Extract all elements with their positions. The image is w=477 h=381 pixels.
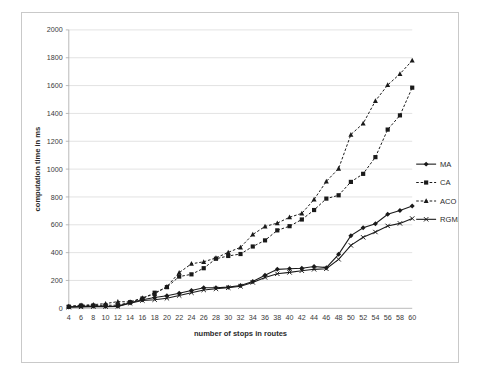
series-layer (66, 58, 414, 310)
data-point-ma (275, 267, 280, 272)
x-tick-label: 36 (261, 314, 269, 322)
series-line-rgma (69, 219, 412, 308)
x-axis-title: number of stops in routes (194, 329, 287, 338)
data-point-ca (300, 217, 304, 221)
x-tick-label: 14 (126, 314, 134, 322)
y-tick-label: 1000 (47, 166, 63, 174)
y-axis-title: computation time in ms (33, 127, 42, 212)
data-point-rgma (410, 216, 414, 220)
data-point-ca (226, 254, 230, 258)
data-point-ca (386, 127, 390, 131)
x-tick-label: 58 (396, 314, 404, 322)
y-tick-label: 0 (59, 305, 63, 313)
y-tick-label: 1800 (47, 54, 63, 62)
data-point-ca (361, 172, 365, 176)
data-point-aco (361, 121, 366, 126)
legend-marker-ca (424, 180, 428, 184)
x-tick-label: 28 (212, 314, 220, 322)
y-tick-label: 200 (51, 277, 63, 285)
x-tick-label: 40 (286, 314, 294, 322)
x-tick-label: 8 (91, 314, 95, 322)
x-tick-label: 10 (102, 314, 110, 322)
data-point-ca (238, 252, 242, 256)
x-tick-label: 16 (138, 314, 146, 322)
data-point-ca (189, 272, 193, 276)
data-point-ca (263, 238, 267, 242)
legend-label-ma: MA (440, 160, 452, 169)
legend-item-rgma[interactable]: RGMA (416, 215, 458, 224)
data-point-ca (177, 274, 181, 278)
data-point-aco (336, 166, 341, 171)
data-point-aco (410, 58, 415, 63)
x-tick-label: 48 (335, 314, 343, 322)
data-point-ca (251, 244, 255, 248)
x-tick-label: 34 (249, 314, 257, 322)
data-point-ca (373, 155, 377, 159)
series-aco (66, 58, 414, 309)
legend-marker-ma (424, 162, 429, 167)
data-point-ca (349, 180, 353, 184)
data-point-ca (410, 86, 414, 90)
y-tickmarks (66, 30, 69, 308)
data-point-rgma (336, 257, 340, 261)
x-tick-label: 26 (200, 314, 208, 322)
y-tick-label: 400 (51, 249, 63, 257)
x-tick-label: 54 (371, 314, 379, 322)
x-tick-label: 32 (237, 314, 245, 322)
y-tick-labels: 0200400600800100012001400160018002000 (47, 26, 63, 312)
data-point-ca (337, 193, 341, 197)
legend-label-rgma: RGMA (440, 215, 458, 224)
x-tick-label: 20 (163, 314, 171, 322)
x-tick-label: 18 (151, 314, 159, 322)
y-tick-label: 2000 (47, 26, 63, 34)
legend-label-aco: ACO (440, 197, 456, 206)
data-point-aco (250, 232, 255, 237)
y-tick-label: 800 (51, 194, 63, 202)
y-tick-label: 1400 (47, 110, 63, 118)
x-tick-label: 24 (187, 314, 195, 322)
data-point-aco (373, 98, 378, 103)
data-point-ma (410, 204, 415, 209)
y-tick-label: 1200 (47, 138, 63, 146)
legend-label-ca: CA (440, 178, 451, 187)
x-tick-label: 52 (359, 314, 367, 322)
x-tick-label: 30 (224, 314, 232, 322)
data-point-aco (177, 270, 182, 275)
data-point-rgma (373, 230, 377, 234)
gridlines (69, 30, 412, 281)
chart-legend: MACAACORGMA (416, 160, 458, 224)
x-tick-labels: 4681012141618202224262830323436384042444… (67, 314, 416, 322)
data-point-ca (275, 228, 279, 232)
legend-item-ca[interactable]: CA (416, 178, 451, 187)
y-tick-label: 1600 (47, 82, 63, 90)
legend-marker-aco (424, 198, 429, 203)
data-point-ca (398, 113, 402, 117)
series-line-ma (69, 206, 412, 307)
x-tick-label: 46 (322, 314, 330, 322)
data-point-ca (312, 208, 316, 212)
data-point-rgma (361, 235, 365, 239)
x-tick-label: 42 (298, 314, 306, 322)
x-tick-label: 4 (67, 314, 71, 322)
x-tick-label: 12 (114, 314, 122, 322)
data-point-rgma (349, 243, 353, 247)
computation-time-line-chart: 0200400600800100012001400160018002000 46… (22, 13, 458, 362)
x-tick-label: 44 (310, 314, 318, 322)
x-tick-label: 60 (408, 314, 416, 322)
data-point-aco (189, 261, 194, 266)
legend-item-aco[interactable]: ACO (416, 197, 456, 206)
legend-item-ma[interactable]: MA (416, 160, 452, 169)
x-tick-label: 22 (175, 314, 183, 322)
data-point-ca (202, 266, 206, 270)
chart-container: 0200400600800100012001400160018002000 46… (21, 12, 459, 363)
x-tick-label: 50 (347, 314, 355, 322)
x-tick-label: 38 (273, 314, 281, 322)
x-tick-label: 6 (79, 314, 83, 322)
x-tick-label: 56 (384, 314, 392, 322)
data-point-ma (397, 208, 402, 213)
series-ma (66, 204, 414, 310)
data-point-ca (287, 224, 291, 228)
data-point-ca (324, 197, 328, 201)
series-line-aco (69, 61, 412, 307)
data-point-ma (299, 266, 304, 271)
